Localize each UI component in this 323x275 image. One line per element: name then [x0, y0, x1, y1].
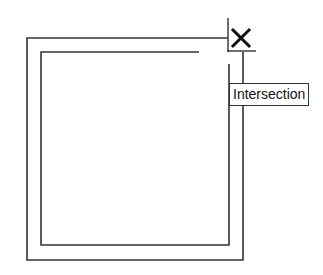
outer-square-line: [27, 38, 243, 260]
x-mark-icon: [233, 30, 249, 46]
crosshair-cursor: [227, 18, 256, 52]
drawing-canvas[interactable]: [0, 0, 323, 275]
snap-tooltip: Intersection: [229, 83, 309, 106]
inner-square-line: [41, 52, 229, 245]
